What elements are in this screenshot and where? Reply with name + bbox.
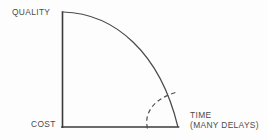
time-axis-label-group: TIME (MANY DELAYS) <box>190 110 259 130</box>
time-axis-sublabel: (MANY DELAYS) <box>190 120 259 130</box>
main-quarter-arc <box>63 12 178 127</box>
cost-axis-label: COST <box>31 119 56 129</box>
diagram-canvas: QUALITY COST TIME (MANY DELAYS) <box>0 0 268 140</box>
time-axis-label: TIME <box>190 110 259 120</box>
quality-axis-label: QUALITY <box>12 7 50 17</box>
